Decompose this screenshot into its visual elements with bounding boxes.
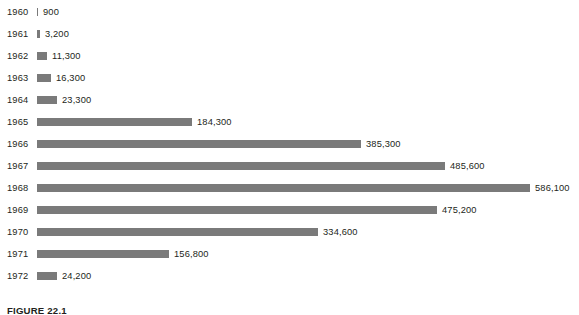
bar-fill <box>37 250 169 258</box>
bar-value-label: 24,200 <box>62 265 91 287</box>
bar-value-label: 11,300 <box>52 45 81 67</box>
bar-row: 1966385,300 <box>0 133 579 155</box>
bar-row: 1960900 <box>0 1 579 23</box>
bar-row: 1969475,200 <box>0 199 579 221</box>
bar-row: 19613,200 <box>0 23 579 45</box>
bar-fill <box>37 30 40 38</box>
bar-row: 196316,300 <box>0 67 579 89</box>
bar-value-label: 184,300 <box>197 111 232 133</box>
bar-track: 23,300 <box>37 89 575 111</box>
bar-fill <box>37 118 192 126</box>
bar-fill <box>37 162 445 170</box>
bar-track: 184,300 <box>37 111 575 133</box>
bar-category-label: 1961 <box>7 23 35 45</box>
bar-fill <box>37 8 38 16</box>
bar-value-label: 156,800 <box>174 243 209 265</box>
bar-category-label: 1972 <box>7 265 35 287</box>
bar-category-label: 1965 <box>7 111 35 133</box>
bar-value-label: 900 <box>43 1 59 23</box>
bar-category-label: 1971 <box>7 243 35 265</box>
bar-track: 11,300 <box>37 45 575 67</box>
bar-track: 485,600 <box>37 155 575 177</box>
bar-category-label: 1960 <box>7 1 35 23</box>
bar-row: 1965184,300 <box>0 111 579 133</box>
bar-track: 24,200 <box>37 265 575 287</box>
bar-fill <box>37 272 57 280</box>
bar-rows-container: 196090019613,200196211,300196316,3001964… <box>0 0 579 303</box>
bar-row: 196423,300 <box>0 89 579 111</box>
bar-row: 1967485,600 <box>0 155 579 177</box>
bar-category-label: 1962 <box>7 45 35 67</box>
bar-row: 1970334,600 <box>0 221 579 243</box>
bar-value-label: 586,100 <box>535 177 570 199</box>
bar-row: 196211,300 <box>0 45 579 67</box>
bar-value-label: 485,600 <box>450 155 485 177</box>
bar-track: 900 <box>37 1 575 23</box>
bar-row: 1971156,800 <box>0 243 579 265</box>
bar-track: 16,300 <box>37 67 575 89</box>
bar-value-label: 385,300 <box>366 133 401 155</box>
bar-value-label: 334,600 <box>323 221 358 243</box>
bar-track: 156,800 <box>37 243 575 265</box>
bar-value-label: 23,300 <box>62 89 91 111</box>
bar-category-label: 1969 <box>7 199 35 221</box>
bar-row: 197224,200 <box>0 265 579 287</box>
bar-category-label: 1963 <box>7 67 35 89</box>
bar-track: 334,600 <box>37 221 575 243</box>
bar-track: 385,300 <box>37 133 575 155</box>
bar-fill <box>37 74 51 82</box>
bar-value-label: 3,200 <box>45 23 69 45</box>
bar-track: 475,200 <box>37 199 575 221</box>
figure-caption: FIGURE 22.1 <box>7 305 67 315</box>
bar-row: 1968586,100 <box>0 177 579 199</box>
bar-category-label: 1967 <box>7 155 35 177</box>
bar-value-label: 16,300 <box>56 67 85 89</box>
bar-category-label: 1968 <box>7 177 35 199</box>
bar-chart: 196090019613,200196211,300196316,3001964… <box>0 0 579 315</box>
bar-fill <box>37 206 437 214</box>
bar-fill <box>37 96 57 104</box>
bar-fill <box>37 140 361 148</box>
bar-fill <box>37 52 47 60</box>
bar-fill <box>37 184 530 192</box>
bar-fill <box>37 228 318 236</box>
bar-category-label: 1964 <box>7 89 35 111</box>
bar-category-label: 1970 <box>7 221 35 243</box>
bar-track: 3,200 <box>37 23 575 45</box>
bar-track: 586,100 <box>37 177 575 199</box>
bar-category-label: 1966 <box>7 133 35 155</box>
bar-value-label: 475,200 <box>442 199 477 221</box>
